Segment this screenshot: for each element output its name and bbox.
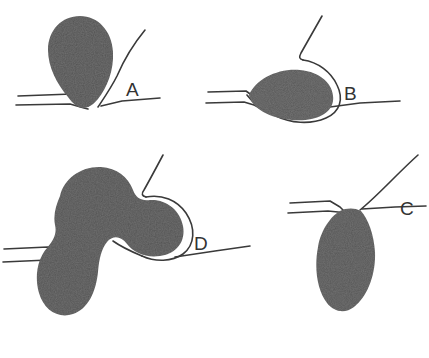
panel-c-label: C bbox=[400, 198, 414, 219]
panel-b-label: B bbox=[344, 83, 357, 104]
panel-a-label: A bbox=[126, 79, 139, 100]
figure-container: A B bbox=[0, 0, 429, 358]
panel-d-label: D bbox=[194, 233, 208, 254]
figure-illustration: A B bbox=[0, 0, 429, 358]
